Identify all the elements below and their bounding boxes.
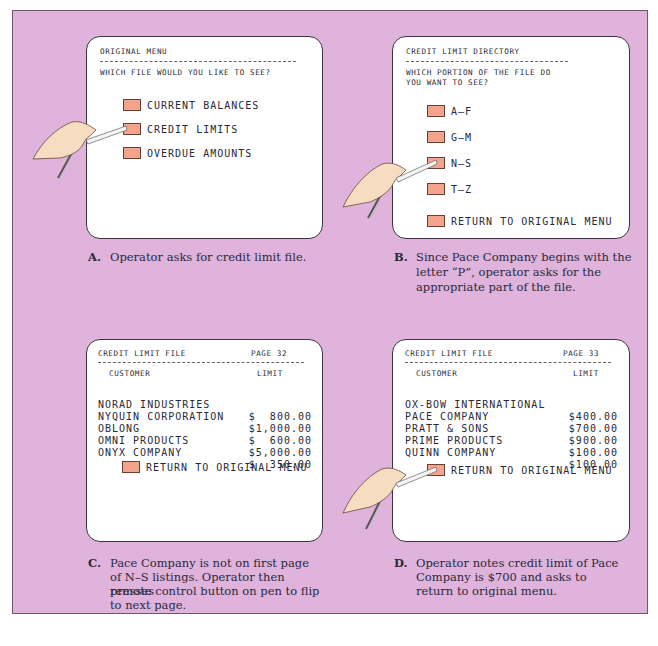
column-header-limit: LIMIT (257, 368, 283, 379)
screen-prompt: WHICH FILE WOULD YOU LIKE TO SEE? (100, 67, 271, 78)
touch-button[interactable] (427, 131, 445, 143)
screen-original-menu: ORIGINAL MENU WHICH FILE WOULD YOU LIKE … (86, 36, 323, 239)
customer-table: NORAD INDUSTRIES $ 800.00 NYQUIN CORPORA… (98, 387, 312, 449)
touch-button[interactable] (123, 123, 141, 135)
touch-button[interactable] (123, 99, 141, 111)
option-n-s[interactable]: N–S (427, 157, 472, 169)
touch-button[interactable] (427, 183, 445, 195)
caption-a: A. Operator asks for credit limit file. (88, 250, 323, 266)
option-t-z[interactable]: T–Z (427, 183, 472, 195)
table-row: PRATT & SONS $900.00 (405, 411, 618, 423)
page-number: PAGE 33 (563, 348, 599, 359)
option-credit-limits[interactable]: CREDIT LIMITS (123, 123, 238, 135)
separator (406, 61, 568, 62)
touch-button[interactable] (122, 461, 140, 473)
column-header-customer: CUSTOMER (109, 368, 150, 379)
screen-title: CREDIT LIMIT FILE (405, 348, 493, 359)
option-overdue-amounts[interactable]: OVERDUE AMOUNTS (123, 147, 252, 159)
caption-c: C. Pace Company is not on first page of … (88, 556, 328, 616)
table-row: NYQUIN CORPORATION $1,000.00 (98, 399, 312, 411)
separator (405, 362, 611, 363)
table-row: PRIME PRODUCTS $100.00 (405, 423, 618, 435)
return-to-original-menu[interactable]: RETURN TO ORIGINAL MENU (427, 215, 612, 227)
caption-b: B. Since Pace Company begins with the le… (394, 250, 644, 298)
screen-credit-limit-file-page-32: CREDIT LIMIT FILE PAGE 32 CUSTOMER LIMIT… (86, 339, 323, 542)
column-header-limit: LIMIT (573, 368, 599, 379)
touch-button[interactable] (427, 105, 445, 117)
screen-credit-limit-directory: CREDIT LIMIT DIRECTORY WHICH PORTION OF … (392, 36, 630, 239)
screen-prompt-line2: YOU WANT TO SEE? (406, 77, 489, 88)
screen-title: CREDIT LIMIT DIRECTORY (406, 46, 520, 57)
screen-title: ORIGINAL MENU (100, 46, 167, 57)
option-current-balances[interactable]: CURRENT BALANCES (123, 99, 259, 111)
table-row: OBLONG $ 600.00 (98, 411, 312, 423)
return-to-original-menu[interactable]: RETURN TO ORIGINAL MENU (122, 461, 307, 473)
table-row: QUINN COMPANY $100.00 (405, 435, 618, 447)
table-row-highlight: PACE COMPANY $700.00 (405, 399, 618, 411)
table-row: OX-BOW INTERNATIONAL $400.00 (405, 387, 618, 399)
touch-button[interactable] (427, 215, 445, 227)
separator (100, 61, 296, 62)
table-row: ONYX COMPANY $ 350.00 (98, 435, 312, 447)
table-row: NORAD INDUSTRIES $ 800.00 (98, 387, 312, 399)
touch-button[interactable] (427, 157, 445, 169)
screen-title: CREDIT LIMIT FILE (98, 348, 186, 359)
option-g-m[interactable]: G–M (427, 131, 472, 143)
column-header-customer: CUSTOMER (416, 368, 457, 379)
touch-button[interactable] (123, 147, 141, 159)
page-number: PAGE 32 (251, 348, 287, 359)
customer-table: OX-BOW INTERNATIONAL $400.00 PACE COMPAN… (405, 387, 618, 449)
touch-button[interactable] (427, 464, 445, 476)
screen-credit-limit-file-page-33: CREDIT LIMIT FILE PAGE 33 CUSTOMER LIMIT… (392, 339, 630, 542)
caption-d: D. Operator notes credit limit of Pace C… (394, 556, 644, 604)
return-to-original-menu[interactable]: RETURN TO ORIGINAL MENU (427, 464, 612, 476)
separator (98, 362, 304, 363)
option-a-f[interactable]: A–F (427, 105, 472, 117)
table-row: OMNI PRODUCTS $5,000.00 (98, 423, 312, 435)
